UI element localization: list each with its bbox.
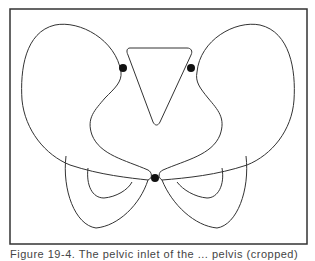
left-obturator-inner — [88, 168, 132, 198]
figure-frame — [10, 9, 307, 244]
center-landmark-dot — [151, 174, 159, 182]
left-obturator-outer — [65, 156, 148, 228]
sacrum-triangle — [127, 48, 192, 125]
right-obturator-outer — [162, 156, 247, 228]
figure-caption: Figure 19-4. The pelvic inlet of the ...… — [10, 247, 310, 261]
right-landmark-dot — [187, 64, 195, 72]
left-landmark-dot — [119, 64, 127, 72]
